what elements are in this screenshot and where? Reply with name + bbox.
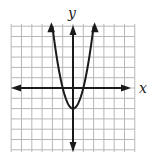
x-axis-left-arrow-icon bbox=[11, 85, 21, 92]
curve-left-arrow-icon bbox=[47, 22, 55, 32]
x-axis-right-arrow-icon bbox=[121, 85, 131, 92]
x-axis-label: x bbox=[139, 80, 147, 96]
curve-right-arrow-icon bbox=[91, 22, 99, 32]
y-axis-label: y bbox=[67, 5, 77, 21]
parabola-graph: y x bbox=[0, 0, 151, 163]
y-axis-down-arrow-icon bbox=[70, 142, 77, 152]
